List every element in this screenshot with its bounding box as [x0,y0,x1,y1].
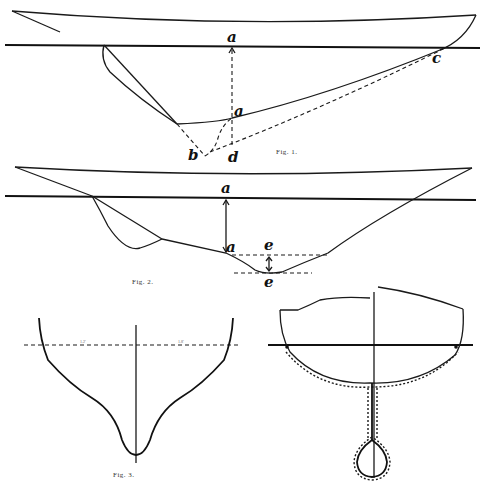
figure-2: a a e e Fig. 2. [5,167,476,291]
fig4-topside-left [280,297,370,310]
fig1-label-c: c [432,49,441,67]
fig4-topside-right [378,287,463,309]
fig3-label-right: 1.8' [178,339,184,344]
fig2-forefoot [92,196,162,249]
fig3-label-left: 1.2' [80,339,86,344]
fig1-caption: Fig. 1. [276,148,298,156]
fig1-dashed-to-c [210,48,445,152]
fig1-waterline [5,45,480,48]
fig2-caption: Fig. 2. [132,278,154,286]
fig3-section-right [136,318,233,455]
fig2-bottom [162,168,472,273]
figure-1: a a b d c Fig. 1. [5,11,480,166]
fig2-label-e-top: e [264,236,274,254]
fig1-bottom-curve [177,48,445,124]
fig3-section-left [39,318,136,455]
fig1-label-a-mid: a [234,102,244,120]
fig1-label-b: b [188,146,199,164]
fig1-label-d: d [228,148,239,166]
figure-3: 1.2' 1.8' Fig. 3. [24,318,240,479]
fig2-bow-line [15,167,92,196]
fig3-caption: Fig. 3. [113,471,135,479]
fig2-label-e-bottom: e [264,273,274,291]
fig1-label-a-top: a [227,28,237,46]
fig1-stern-line [440,15,476,50]
fig1-stem-diagonal [104,45,177,124]
figure-4 [268,287,473,480]
fig4-marker-right [454,345,458,349]
fig2-waterline [5,196,476,200]
fig2-stem-diagonal [92,196,162,239]
fig4-marker-left [285,345,289,349]
fig2-label-a-bottom: a [226,238,236,256]
fig4-bulb-dotted [354,437,390,480]
fig2-sheer-line [15,167,472,174]
hull-diagrams: a a b d c Fig. 1. a a e e Fig. 2. [0,0,489,485]
fig2-label-a-top: a [221,179,231,197]
fig1-sheer-line [12,11,476,22]
